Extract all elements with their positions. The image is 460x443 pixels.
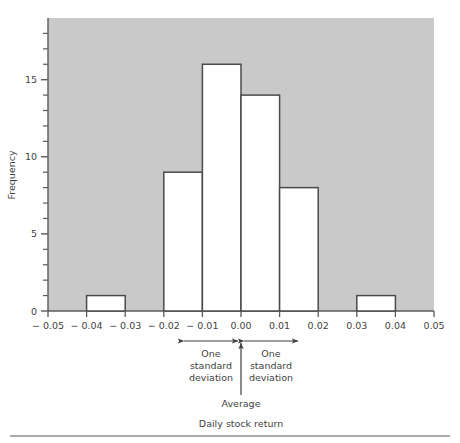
- x-axis-tick-label: 0.01: [269, 320, 290, 331]
- x-axis-caption: Daily stock return: [199, 418, 283, 429]
- y-axis-tick-label: 10: [25, 151, 37, 162]
- right-sd-label-line1: One: [261, 348, 280, 359]
- histogram-figure: 051015 − 0.05− 0.04− 0.03− 0.02− 0.010.0…: [0, 0, 460, 443]
- histogram-bar: [87, 296, 126, 311]
- y-axis-tick-label: 5: [31, 228, 37, 239]
- x-axis-tick-label: 0.03: [346, 320, 367, 331]
- x-axis-tick-label: − 0.05: [32, 320, 64, 331]
- right-sd-label-line3: deviation: [249, 372, 293, 383]
- average-label: Average: [221, 398, 260, 409]
- x-axis-tick-label: 0.04: [385, 320, 406, 331]
- x-axis-tick-label: − 0.02: [148, 320, 180, 331]
- histogram-bar: [241, 95, 280, 311]
- y-axis-title: Frequency: [6, 150, 17, 199]
- y-axis-tick-label: 0: [31, 306, 37, 317]
- x-axis-tick-label: 0.05: [423, 320, 444, 331]
- histogram-bar: [164, 172, 203, 311]
- x-axis-tick-label: 0.02: [308, 320, 329, 331]
- right-sd-label-line2: standard: [250, 360, 292, 371]
- x-axis-tick-label: − 0.03: [109, 320, 141, 331]
- histogram-bar: [202, 64, 241, 311]
- x-axis-tick-label: − 0.04: [71, 320, 103, 331]
- left-sd-label-line2: standard: [190, 360, 232, 371]
- x-axis-tick-label: 0.00: [230, 320, 251, 331]
- x-axis-tick-label: − 0.01: [186, 320, 218, 331]
- histogram-bar: [280, 188, 319, 311]
- y-axis-tick-label: 15: [25, 74, 37, 85]
- left-sd-label-line1: One: [201, 348, 220, 359]
- histogram-bar: [357, 296, 396, 311]
- left-sd-label-line3: deviation: [189, 372, 233, 383]
- histogram-svg: 051015 − 0.05− 0.04− 0.03− 0.02− 0.010.0…: [0, 0, 460, 443]
